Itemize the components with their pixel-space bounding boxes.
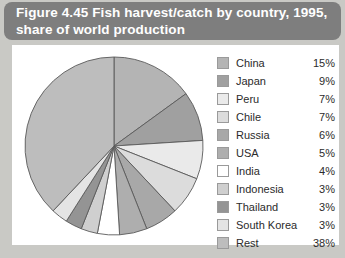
legend-item-value: 5% <box>307 147 335 159</box>
legend-item-label: Rest <box>236 237 307 249</box>
figure-container: Figure 4.45 Fish harvest/catch by countr… <box>0 0 345 258</box>
legend-item-value: 7% <box>307 111 335 123</box>
legend-swatch-icon <box>217 237 229 249</box>
legend-item-china[interactable]: China15% <box>217 54 335 72</box>
page-title: Figure 4.45 Fish harvest/catch by countr… <box>16 5 331 38</box>
legend-item-india[interactable]: India4% <box>217 162 335 180</box>
legend-item-value: 9% <box>307 75 335 87</box>
legend-item-value: 3% <box>307 183 335 195</box>
legend-swatch-icon <box>217 57 229 69</box>
legend-item-label: India <box>236 165 307 177</box>
legend-swatch-icon <box>217 183 229 195</box>
legend-item-indonesia[interactable]: Indonesia3% <box>217 180 335 198</box>
legend-swatch-icon <box>217 111 229 123</box>
legend-item-label: Thailand <box>236 201 307 213</box>
chart-content-panel: China15%Japan9%Peru7%Chile7%Russia6%USA5… <box>12 45 339 245</box>
legend-item-label: Japan <box>236 75 307 87</box>
pie-chart <box>22 54 212 244</box>
legend-item-label: Peru <box>236 93 307 105</box>
legend-item-japan[interactable]: Japan9% <box>217 72 335 90</box>
legend-swatch-icon <box>217 93 229 105</box>
legend-item-peru[interactable]: Peru7% <box>217 90 335 108</box>
legend-item-thailand[interactable]: Thailand3% <box>217 198 335 216</box>
legend-item-label: South Korea <box>236 219 307 231</box>
legend-item-label: Indonesia <box>236 183 307 195</box>
legend-item-label: USA <box>236 147 307 159</box>
legend-swatch-icon <box>217 165 229 177</box>
legend-item-label: Chile <box>236 111 307 123</box>
legend-item-label: China <box>236 57 307 69</box>
figure-title-banner: Figure 4.45 Fish harvest/catch by countr… <box>4 2 341 40</box>
legend-item-label: Russia <box>236 129 307 141</box>
legend-item-value: 4% <box>307 165 335 177</box>
legend-item-rest[interactable]: Rest38% <box>217 234 335 252</box>
legend-item-chile[interactable]: Chile7% <box>217 108 335 126</box>
pie-chart-svg <box>22 54 212 244</box>
legend-item-value: 15% <box>307 57 335 69</box>
legend-item-value: 3% <box>307 219 335 231</box>
legend-swatch-icon <box>217 147 229 159</box>
legend-swatch-icon <box>217 75 229 87</box>
legend-swatch-icon <box>217 219 229 231</box>
legend-item-value: 38% <box>307 237 335 249</box>
legend-swatch-icon <box>217 201 229 213</box>
legend-item-value: 6% <box>307 129 335 141</box>
chart-legend: China15%Japan9%Peru7%Chile7%Russia6%USA5… <box>217 54 335 252</box>
legend-item-south-korea[interactable]: South Korea3% <box>217 216 335 234</box>
legend-item-usa[interactable]: USA5% <box>217 144 335 162</box>
legend-item-value: 3% <box>307 201 335 213</box>
legend-item-russia[interactable]: Russia6% <box>217 126 335 144</box>
legend-swatch-icon <box>217 129 229 141</box>
legend-item-value: 7% <box>307 93 335 105</box>
